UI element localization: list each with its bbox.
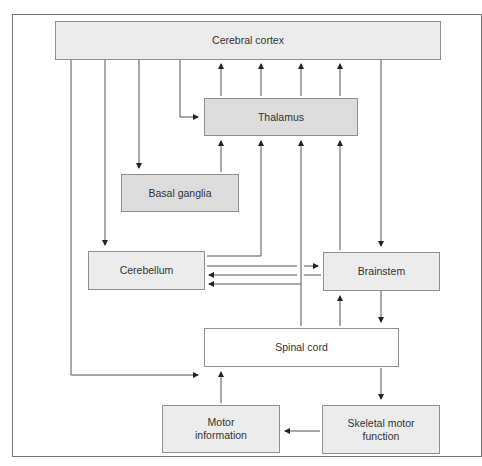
node-label: Brainstem: [358, 265, 405, 278]
node-spinal-cord: Spinal cord: [204, 328, 399, 367]
arrow-cortex-to-spinal: [71, 60, 198, 375]
node-label-line-2: information: [195, 429, 247, 442]
node-basal-ganglia: Basal ganglia: [121, 174, 239, 212]
node-label-line-2: function: [363, 430, 400, 443]
node-skeletal-motor-function: Skeletal motor function: [322, 405, 440, 454]
node-label-line-1: Skeletal motor: [347, 417, 414, 430]
node-label: Thalamus: [258, 111, 304, 124]
node-label: Basal ganglia: [148, 187, 211, 200]
node-cerebellum: Cerebellum: [88, 251, 205, 290]
node-thalamus: Thalamus: [204, 98, 358, 136]
node-label: Spinal cord: [275, 341, 328, 354]
node-brainstem: Brainstem: [323, 252, 440, 291]
node-label: Cerebellum: [120, 264, 174, 277]
node-label-line-1: Motor: [208, 416, 235, 429]
node-label: Cerebral cortex: [212, 34, 284, 47]
node-cerebral-cortex: Cerebral cortex: [55, 21, 441, 60]
arrow-cortex-to-thalamus: [180, 60, 198, 117]
node-motor-information: Motor information: [162, 405, 280, 453]
